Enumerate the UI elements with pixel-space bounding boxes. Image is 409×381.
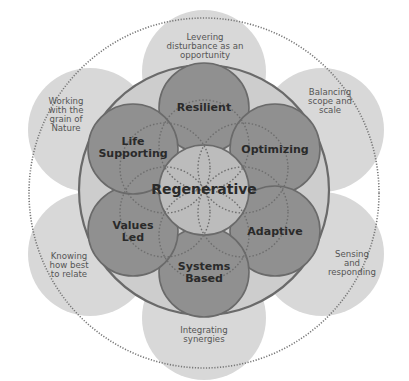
principle-resilient: Resilient <box>164 102 244 114</box>
regenerative-diagram: Regenerative Resilient Optimizing Adapti… <box>0 0 409 381</box>
petal-knowing-how-best: Knowing how best to relate <box>46 252 92 279</box>
principle-adaptive: Adaptive <box>235 226 315 238</box>
petal-working-with-grain: Working with the grain of Nature <box>42 97 90 133</box>
principle-systems-based: Systems Based <box>176 261 232 284</box>
principle-life-supporting: Life Supporting <box>91 136 175 159</box>
principle-optimizing: Optimizing <box>235 144 315 156</box>
center-label: Regenerative <box>150 182 258 197</box>
petal-balancing-scope: Balancing scope and scale <box>300 88 360 115</box>
principle-values-led: Values Led <box>105 220 161 243</box>
petal-integrating-synergies: Integrating synergies <box>170 326 238 344</box>
petal-levering-disturbance: Levering disturbance as an opportunity <box>160 33 250 60</box>
petal-sensing-responding: Sensing and responding <box>326 250 378 277</box>
